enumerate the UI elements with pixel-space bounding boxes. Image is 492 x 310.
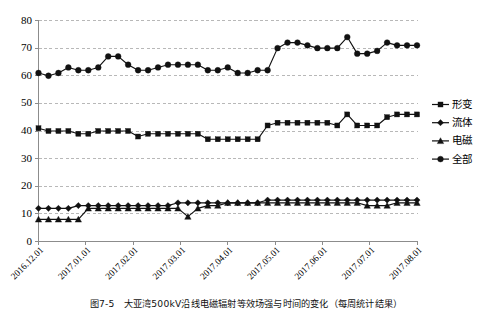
data-point-形变-20	[235, 137, 240, 142]
data-point-全部-36	[394, 42, 400, 48]
data-point-形变-26	[295, 120, 300, 125]
data-point-全部-16	[195, 62, 201, 68]
legend-marker-diamond-icon	[437, 120, 443, 126]
xtick-label-group: 2016.12.012017.01.012017.02.012017.03.01…	[9, 245, 424, 282]
data-point-全部-8	[115, 54, 121, 60]
data-point-形变-36	[395, 112, 400, 117]
data-point-全部-15	[185, 62, 191, 68]
data-point-形变-23	[265, 123, 270, 128]
data-point-全部-29	[324, 45, 330, 51]
data-point-流体-4	[75, 202, 81, 208]
data-point-形变-8	[116, 129, 121, 134]
x-tick-label-0: 2016.12.01	[9, 245, 46, 282]
x-tick-label-3: 2017.03.01	[151, 245, 188, 282]
x-tick-label-1: 2017.01.01	[56, 245, 93, 282]
data-point-形变-5	[86, 131, 91, 136]
data-point-全部-0	[36, 70, 42, 76]
data-point-全部-23	[265, 67, 271, 73]
legend-label-全部: 全部	[452, 153, 472, 165]
x-tick-label-6: 2017.06.01	[293, 245, 330, 282]
data-point-全部-34	[374, 48, 380, 54]
data-point-全部-6	[95, 65, 101, 71]
x-tick-label-4: 2017.04.01	[198, 245, 235, 282]
legend-label-形变: 形变	[452, 98, 473, 110]
data-point-全部-17	[205, 67, 211, 73]
series-电磁	[35, 200, 420, 222]
data-point-形变-6	[96, 129, 101, 134]
data-point-形变-38	[415, 112, 420, 117]
data-point-形变-11	[146, 131, 151, 136]
data-point-形变-1	[46, 129, 51, 134]
data-point-形变-0	[36, 126, 41, 131]
grid-group	[39, 21, 419, 214]
data-point-形变-27	[305, 120, 310, 125]
data-point-全部-7	[105, 54, 111, 60]
y-tick-label-0: 0	[27, 235, 33, 247]
legend-item-电磁[interactable]: 电磁	[432, 134, 473, 146]
x-tick-label-8: 2017.08.01	[387, 245, 424, 282]
legend-label-电磁: 电磁	[452, 134, 473, 146]
series-全部	[36, 34, 420, 78]
data-point-形变-16	[195, 131, 200, 136]
series-line-形变	[39, 114, 418, 139]
data-point-形变-32	[355, 123, 360, 128]
y-tick-label-40: 40	[21, 124, 33, 136]
y-tick-label-80: 80	[21, 14, 33, 26]
legend-group[interactable]: 形变流体电磁全部	[432, 98, 473, 165]
data-point-形变-31	[345, 112, 350, 117]
y-tick-label-60: 60	[21, 69, 33, 81]
data-point-形变-18	[215, 137, 220, 142]
legend-item-流体[interactable]: 流体	[432, 116, 473, 128]
legend-item-全部[interactable]: 全部	[432, 153, 472, 165]
data-point-全部-22	[255, 67, 261, 73]
legend-marker-square-icon	[438, 102, 443, 107]
data-point-形变-33	[365, 123, 370, 128]
data-point-流体-0	[35, 205, 41, 211]
series-形变	[36, 112, 420, 142]
data-point-全部-38	[414, 42, 420, 48]
data-point-形变-3	[66, 129, 71, 134]
y-tick-label-70: 70	[21, 41, 33, 53]
data-point-全部-3	[65, 65, 71, 71]
data-point-形变-25	[285, 120, 290, 125]
y-tick-label-20: 20	[21, 179, 33, 191]
legend-item-形变[interactable]: 形变	[432, 98, 473, 110]
data-point-形变-15	[185, 131, 190, 136]
data-point-形变-30	[335, 123, 340, 128]
data-point-形变-12	[156, 131, 161, 136]
data-point-全部-18	[215, 67, 221, 73]
y-tick-label-50: 50	[21, 96, 33, 108]
line-chart: 01020304050607080 2016.12.012017.01.0120…	[0, 0, 492, 310]
data-point-形变-22	[255, 137, 260, 142]
x-tick-label-5: 2017.05.01	[245, 245, 282, 282]
data-point-形变-24	[275, 120, 280, 125]
data-point-形变-9	[126, 129, 131, 134]
legend-marker-circle-icon	[438, 156, 444, 162]
data-point-全部-24	[275, 45, 281, 51]
data-point-全部-14	[175, 62, 181, 68]
data-point-全部-25	[285, 40, 291, 46]
figure-container: 01020304050607080 2016.12.012017.01.0120…	[0, 0, 492, 310]
legend-label-流体: 流体	[452, 116, 473, 128]
data-point-形变-37	[405, 112, 410, 117]
data-point-全部-19	[225, 65, 231, 71]
data-point-全部-12	[155, 65, 161, 71]
data-point-形变-29	[325, 120, 330, 125]
data-point-全部-13	[165, 62, 171, 68]
data-point-全部-31	[344, 34, 350, 40]
data-point-全部-27	[305, 42, 311, 48]
data-point-全部-32	[354, 51, 360, 57]
data-point-全部-26	[295, 40, 301, 46]
data-point-全部-33	[364, 51, 370, 57]
data-point-形变-21	[245, 137, 250, 142]
data-point-流体-3	[65, 205, 71, 211]
data-point-形变-10	[136, 134, 141, 139]
data-point-形变-13	[165, 131, 170, 136]
data-point-流体-15	[185, 200, 191, 206]
data-point-全部-21	[245, 70, 251, 76]
data-point-形变-2	[56, 129, 61, 134]
data-point-全部-2	[56, 70, 62, 76]
data-point-全部-1	[46, 73, 52, 79]
x-tick-label-2: 2017.02.01	[103, 245, 140, 282]
data-point-全部-28	[314, 45, 320, 51]
